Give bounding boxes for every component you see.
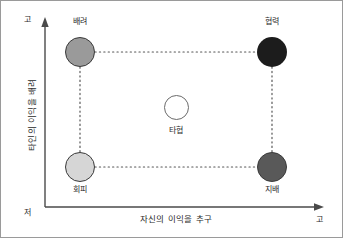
x-axis-title: 자신의 이익을 추구 bbox=[140, 215, 212, 224]
node-label-hyeopryeok: 협력 bbox=[265, 18, 279, 26]
node-label-jibae: 지배 bbox=[265, 186, 279, 194]
y-axis-low-tick: 저 bbox=[24, 209, 31, 217]
x-axis-high-tick: 고 bbox=[316, 216, 323, 224]
node-hoepi[interactable] bbox=[65, 152, 95, 182]
node-baeryeo[interactable] bbox=[65, 37, 95, 67]
y-axis bbox=[41, 17, 48, 207]
node-label-hoepi: 회피 bbox=[73, 186, 87, 194]
node-jibae[interactable] bbox=[257, 152, 287, 182]
y-axis-title: 타인의 이익을 배려 bbox=[28, 79, 37, 151]
node-hyeopryeok[interactable] bbox=[257, 37, 287, 67]
conflict-styles-diagram: 배려 협력 타협 회피 지배 고 저 고 자신의 이익을 추구 타인의 이익을 … bbox=[0, 0, 343, 238]
x-axis bbox=[45, 203, 324, 210]
node-label-tahyeop: 타협 bbox=[169, 127, 183, 135]
node-tahyeop[interactable] bbox=[164, 95, 189, 120]
node-label-baeryeo: 배려 bbox=[73, 18, 87, 26]
y-axis-high-tick: 고 bbox=[24, 16, 31, 24]
